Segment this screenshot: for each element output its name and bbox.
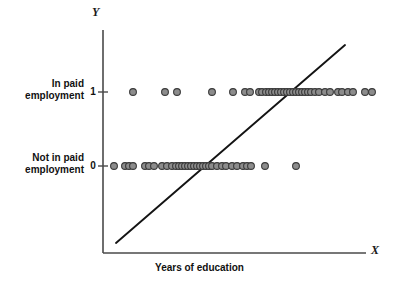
data-point-group-y1: [130, 89, 376, 96]
data-point: [247, 89, 254, 96]
y-category-label-not-in-paid-employment: Not in paid employment: [6, 152, 84, 175]
data-point: [362, 89, 369, 96]
y-category-label-line2: employment: [25, 90, 84, 101]
data-point: [174, 89, 181, 96]
data-point: [130, 89, 137, 96]
data-point: [248, 163, 255, 170]
data-point: [369, 89, 376, 96]
data-point: [209, 89, 216, 96]
chart-caption: Years of education: [0, 262, 399, 273]
data-point: [350, 89, 357, 96]
data-point: [327, 89, 334, 96]
y-category-label-line2: employment: [25, 164, 84, 175]
regression-line-segment: [116, 45, 345, 243]
x-axis-title: X: [371, 243, 379, 258]
y-tick-label-0: 0: [88, 160, 98, 171]
y-tick-label-1: 1: [88, 86, 98, 97]
data-point: [111, 163, 118, 170]
data-point: [262, 163, 269, 170]
data-point-group-y0: [111, 163, 300, 170]
data-point: [293, 163, 300, 170]
data-point: [162, 89, 169, 96]
y-axis-title: Y: [92, 5, 99, 20]
data-point: [230, 89, 237, 96]
plot-canvas: [0, 0, 399, 287]
y-category-label-line1: In paid: [52, 78, 84, 89]
data-point: [130, 163, 137, 170]
y-category-label-in-paid-employment: In paid employment: [6, 78, 84, 101]
data-point: [151, 163, 158, 170]
regression-line: [116, 45, 345, 243]
y-category-label-line1: Not in paid: [32, 152, 84, 163]
scatter-plot-figure: Y X In paid employment Not in paid emplo…: [0, 0, 399, 287]
